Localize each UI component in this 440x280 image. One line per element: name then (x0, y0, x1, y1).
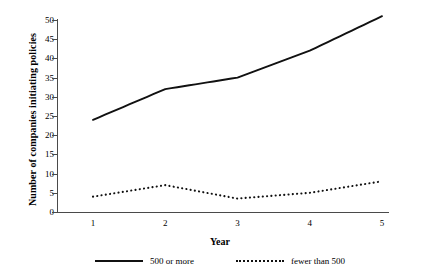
y-tick-mark (52, 212, 57, 213)
chart-legend: 500 or more fewer than 500 (0, 256, 440, 266)
y-tick-mark (52, 193, 57, 194)
x-tick-label: 3 (226, 218, 250, 228)
y-tick-mark (52, 174, 57, 175)
legend-label-500-or-more: 500 or more (150, 256, 194, 266)
y-tick-mark (52, 78, 57, 79)
legend-label-fewer-than-500: fewer than 500 (291, 256, 345, 266)
legend-swatch-dotted-line-icon (236, 258, 284, 264)
y-tick-mark (52, 135, 57, 136)
x-tick-label: 4 (298, 218, 322, 228)
x-axis-title: Year (0, 236, 440, 247)
y-tick-mark (52, 58, 57, 59)
y-tick-mark (52, 39, 57, 40)
y-tick-mark (52, 154, 57, 155)
y-tick-mark (52, 116, 57, 117)
x-tick-label: 1 (81, 218, 105, 228)
series-line-500-or-more (93, 16, 382, 120)
y-tick-mark (52, 20, 57, 21)
line-chart: Number of companies initiating policies … (0, 0, 440, 280)
series-line-fewer-than-500 (93, 181, 382, 198)
x-tick-label: 2 (153, 218, 177, 228)
legend-item-500-or-more: 500 or more (95, 256, 194, 266)
x-tick-label: 5 (370, 218, 394, 228)
legend-item-fewer-than-500: fewer than 500 (236, 256, 345, 266)
legend-swatch-solid-line-icon (95, 258, 143, 264)
y-tick-mark (52, 97, 57, 98)
